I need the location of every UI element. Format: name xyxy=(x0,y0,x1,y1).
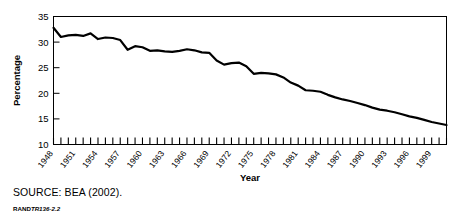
y-axis-title: Percentage xyxy=(11,55,22,106)
x-tick-label: 1984 xyxy=(302,148,322,169)
x-tick-label: 1972 xyxy=(214,148,234,169)
x-tick-label: 1999 xyxy=(414,148,434,169)
rand-document-id: RANDTR136-2.2 xyxy=(13,205,60,212)
x-tick-label: 1969 xyxy=(191,148,211,169)
y-tick-label: 15 xyxy=(38,113,49,124)
source-note: SOURCE: BEA (2002). xyxy=(13,186,122,198)
series-polyline xyxy=(54,28,447,125)
x-axis-tick-labels: 1948195119541957196019631966196919721975… xyxy=(36,148,434,169)
x-tick-label: 1963 xyxy=(147,148,167,169)
x-tick-label: 1966 xyxy=(169,148,189,169)
rand-doc-id-text: TR136-2.2 xyxy=(31,205,60,212)
x-tick-label: 1990 xyxy=(347,148,367,169)
y-tick-label: 30 xyxy=(38,37,49,48)
x-tick-label: 1975 xyxy=(236,148,256,169)
y-tick-label: 20 xyxy=(38,88,49,99)
plot-frame xyxy=(54,17,447,145)
rand-brand-text: RAND xyxy=(13,205,31,212)
y-tick-label: 10 xyxy=(38,139,49,150)
data-series-line xyxy=(54,28,447,125)
x-tick-label: 1957 xyxy=(102,148,122,169)
x-axis-title: Year xyxy=(240,172,260,183)
x-tick-label: 1981 xyxy=(280,148,300,169)
x-tick-label: 1978 xyxy=(258,148,278,169)
x-tick-label: 1960 xyxy=(125,148,145,169)
x-tick-label: 1954 xyxy=(80,148,100,169)
x-tick-label: 1987 xyxy=(325,148,345,169)
x-tick-label: 1996 xyxy=(391,148,411,169)
figure-container: 101520253035 194819511954195719601963196… xyxy=(0,0,468,222)
x-tick-label: 1993 xyxy=(369,148,389,169)
y-axis-tick-labels: 101520253035 xyxy=(38,11,49,150)
y-tick-label: 25 xyxy=(38,62,49,73)
x-tick-label: 1951 xyxy=(58,148,78,169)
x-axis-ticks xyxy=(54,138,447,145)
x-tick-label: 1948 xyxy=(36,148,56,169)
y-tick-label: 35 xyxy=(38,11,49,22)
